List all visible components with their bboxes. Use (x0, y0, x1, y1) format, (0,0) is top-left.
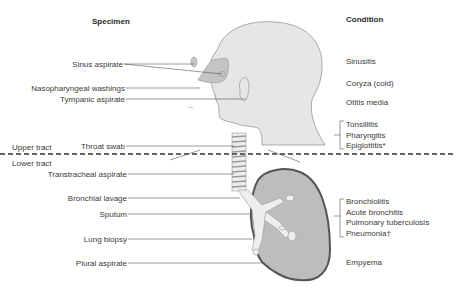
frontal-sinus (191, 57, 197, 67)
specimen-nasopharyngeal-washings: Nasopharyngeal washings (31, 84, 125, 93)
condition-empyema: Empyema (346, 258, 382, 267)
specimen-sputum: Sputum (99, 210, 127, 219)
specimen-throat-swab: Throat swab (81, 142, 125, 151)
anatomy-illustration (0, 0, 456, 302)
condition-pharyngitis: Pharyngitis (346, 131, 386, 142)
nasal-cavity (198, 58, 229, 83)
specimen-plural-aspirate: Plural aspirate (76, 259, 127, 268)
condition-epiglottitis: Epiglottitis* (346, 141, 386, 152)
head-silhouette (203, 22, 325, 145)
upper-tract-label: Upper tract (12, 143, 52, 152)
condition-header: Condition (346, 15, 383, 24)
condition-pulmonary-tuberculosis: Pulmonary tuberculosis (346, 218, 429, 229)
specimen-tympanic-aspirate: Tympanic aspirate (60, 95, 125, 104)
condition-acute-bronchitis: Acute bronchitis (346, 208, 429, 219)
throat-condition-group: Tonsillitis Pharyngitis Epiglottitis* (346, 120, 386, 152)
condition-bronchiolitis: Bronchiolitis (346, 197, 429, 208)
condition-pneumonia: Pneumonia† (346, 229, 429, 240)
lower-tract-label: Lower tract (12, 159, 52, 168)
specimen-header: Specimen (92, 17, 130, 26)
condition-sinusitis: Sinusitis (346, 57, 376, 66)
specimen-lung-biopsy: Lung biopsy (84, 235, 127, 244)
lung-condition-group: Bronchiolitis Acute bronchitis Pulmonary… (346, 197, 429, 239)
specimen-sinus-aspirate: Sinus aspirate (72, 60, 123, 69)
trachea (232, 133, 246, 191)
specimen-bronchial-lavage: Bronchial lavage (68, 194, 127, 203)
condition-tonsillitis: Tonsillitis (346, 120, 386, 131)
specimen-transtracheal-aspirate: Transtracheal aspirate (48, 170, 127, 179)
condition-coryza: Coryza (cold) (346, 79, 394, 88)
condition-otitis-media: Otitis media (346, 98, 388, 107)
